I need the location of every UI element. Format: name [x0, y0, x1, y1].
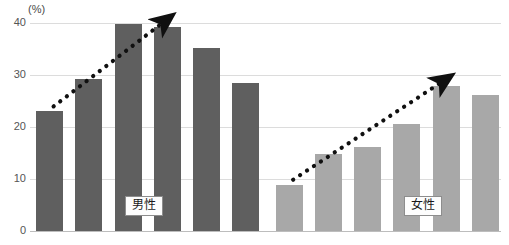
bar-2 [75, 79, 102, 231]
group-label-male: 男性 [125, 196, 163, 216]
group-label-female: 女性 [404, 196, 442, 216]
y-tick-30: 30 [2, 68, 26, 80]
bar-6 [232, 83, 259, 231]
y-tick-20: 20 [2, 120, 26, 132]
bar-5 [193, 48, 220, 231]
bar-12 [472, 95, 499, 231]
bar-8 [315, 154, 342, 231]
y-axis-unit-label: (%) [28, 3, 45, 15]
bar-7 [276, 185, 303, 231]
y-tick-10: 10 [2, 172, 26, 184]
y-tick-40: 40 [2, 16, 26, 28]
y-tick-0: 0 [2, 224, 26, 236]
bar-9 [354, 147, 381, 231]
bottom-axis-rule [30, 231, 501, 232]
bar-chart: (%) 010203040 男性 女性 [0, 0, 509, 245]
bar-1 [36, 111, 63, 231]
